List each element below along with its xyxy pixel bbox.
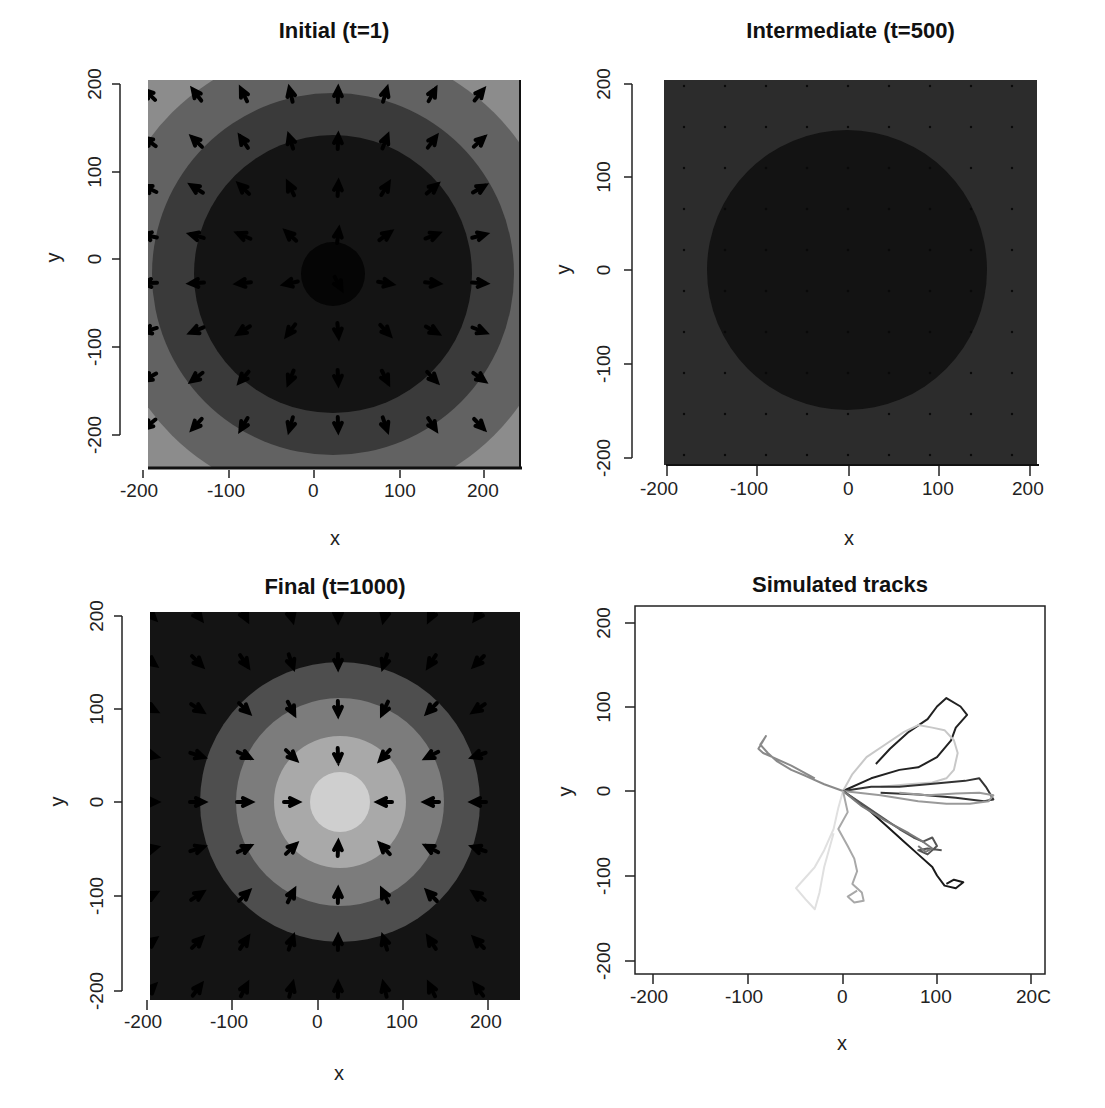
arrow-icon bbox=[145, 985, 155, 995]
x-tick: 100 bbox=[386, 1011, 418, 1033]
y-tick: -100 bbox=[593, 851, 615, 901]
arrow-icon bbox=[475, 608, 483, 619]
x-tick: 100 bbox=[384, 480, 416, 502]
arrow-icon bbox=[144, 373, 156, 380]
y-axis-title: y bbox=[554, 787, 577, 797]
y-tick: 200 bbox=[593, 601, 615, 645]
y-axis-title: y bbox=[42, 253, 65, 263]
x-tick: -100 bbox=[210, 1011, 248, 1033]
y-tick: -100 bbox=[86, 871, 108, 921]
x-axis-title: x bbox=[334, 1062, 344, 1085]
arrow-icon bbox=[144, 939, 155, 947]
x-tick: -200 bbox=[120, 480, 158, 502]
y-tick: -200 bbox=[84, 410, 106, 460]
y-tick: 0 bbox=[593, 769, 615, 813]
heatmap-initial bbox=[0, 0, 552, 554]
y-tick: 100 bbox=[86, 687, 108, 731]
x-axis-title: x bbox=[837, 1032, 847, 1055]
x-tick: 200 bbox=[1012, 478, 1044, 500]
x-tick: 100 bbox=[920, 986, 952, 1008]
x-tick: 200 bbox=[470, 1011, 502, 1033]
y-tick: -200 bbox=[593, 936, 615, 986]
y-tick: 0 bbox=[84, 237, 106, 281]
y-tick: 200 bbox=[593, 62, 615, 106]
y-tick: -100 bbox=[84, 322, 106, 372]
x-axis-title: x bbox=[844, 527, 854, 550]
x-tick: -200 bbox=[630, 986, 668, 1008]
x-tick: 200 bbox=[467, 480, 499, 502]
x-tick: 20C bbox=[1016, 986, 1051, 1008]
y-tick: -100 bbox=[593, 339, 615, 389]
panel-intermediate: Intermediate (t=500) -200 -100 0 100 200… bbox=[552, 0, 1105, 554]
x-tick: -100 bbox=[207, 480, 245, 502]
y-tick: 0 bbox=[86, 780, 108, 824]
tracks-plot bbox=[552, 554, 1105, 1108]
panel-initial: Initial (t=1) -200 -100 0 100 200 200 bbox=[0, 0, 552, 554]
x-tick: 0 bbox=[837, 986, 848, 1008]
x-tick: 0 bbox=[843, 478, 854, 500]
x-tick: -200 bbox=[124, 1011, 162, 1033]
y-tick: 200 bbox=[84, 62, 106, 106]
y-tick: 100 bbox=[84, 150, 106, 194]
y-tick: -200 bbox=[593, 433, 615, 483]
x-tick: 0 bbox=[312, 1011, 323, 1033]
arrow-icon bbox=[143, 798, 157, 806]
y-tick: 100 bbox=[593, 155, 615, 199]
y-tick: -200 bbox=[86, 966, 108, 1016]
arrow-icon bbox=[144, 657, 155, 665]
y-tick: 100 bbox=[593, 685, 615, 729]
y-axis-title: y bbox=[552, 265, 575, 275]
x-tick: 100 bbox=[922, 478, 954, 500]
panel-tracks: Simulated tracks -200 -100 0 100 20C 200… bbox=[552, 554, 1105, 1108]
arrow-icon bbox=[193, 608, 201, 619]
x-tick: -100 bbox=[730, 478, 768, 500]
y-axis-title: y bbox=[46, 797, 69, 807]
y-tick: 200 bbox=[86, 594, 108, 638]
y-tick: 0 bbox=[593, 248, 615, 292]
x-tick: -100 bbox=[725, 986, 763, 1008]
panel-final: Final (t=1000) -200 -100 0 100 200 200 1… bbox=[0, 554, 552, 1108]
x-axis-title: x bbox=[330, 527, 340, 550]
heatmap-intermediate bbox=[552, 0, 1105, 554]
arrow-icon bbox=[145, 609, 155, 619]
x-tick: -200 bbox=[640, 478, 678, 500]
x-tick: 0 bbox=[308, 480, 319, 502]
arrow-icon bbox=[334, 607, 342, 621]
